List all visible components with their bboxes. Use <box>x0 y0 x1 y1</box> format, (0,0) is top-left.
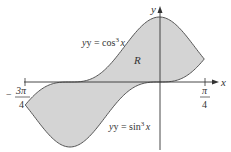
region-label: R <box>133 54 141 66</box>
right-tick-label: π 4 <box>200 85 210 110</box>
left-tick-sign: − <box>6 89 12 100</box>
left-tick-numerator: 3π <box>15 85 27 96</box>
right-tick-denominator: 4 <box>202 99 207 110</box>
x-axis-label: x <box>220 76 226 88</box>
right-tick-numerator: π <box>202 85 208 96</box>
region-diagram: x y R yy = cos3x yy = sin3x − 3π 4 π 4 <box>0 0 231 152</box>
cos-variable: x <box>119 37 125 48</box>
y-axis-arrow-icon <box>158 6 163 13</box>
y-axis-label: y <box>150 3 156 15</box>
cos-curve-label: yy = cos3x <box>81 36 125 48</box>
sin-equation-text: y = sin <box>113 121 140 132</box>
cos-equation-text: y = cos <box>86 37 115 48</box>
sin-curve-label: yy = sin3x <box>108 120 151 132</box>
left-tick-denominator: 4 <box>19 99 24 110</box>
cos-exponent: 3 <box>115 36 119 44</box>
x-axis-arrow-icon <box>212 80 219 85</box>
sin-variable: x <box>145 121 151 132</box>
sin-exponent: 3 <box>141 120 145 128</box>
